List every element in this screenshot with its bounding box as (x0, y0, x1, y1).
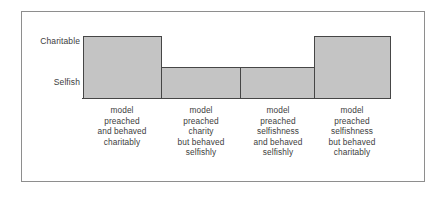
bar-model-preached-and-behaved-charitably (83, 36, 162, 99)
x-axis-labels: modelpreachedand behavedcharitably model… (22, 105, 424, 175)
bar-model-preached-selfishness-and-behaved-selfishly (240, 67, 315, 99)
figure: Charitable Selfish modelpreachedand beha… (0, 0, 447, 197)
x-axis-label-line: but behaved (284, 137, 420, 148)
x-axis-label-4: modelpreachedselfishnessbut behavedchari… (284, 105, 420, 158)
x-axis-label-line: selfishness (284, 126, 420, 137)
x-axis-label-line: model (284, 105, 420, 116)
bar-model-preached-charity-but-behaved-selfishly (161, 67, 241, 99)
x-axis-label-line: preached (284, 116, 420, 127)
plot-area: Charitable Selfish modelpreachedand beha… (22, 12, 424, 181)
bar-model-preached-selfishness-but-behaved-charitably (314, 36, 391, 99)
x-axis-label-line: charitably (284, 147, 420, 158)
chart-frame: Charitable Selfish modelpreachedand beha… (21, 11, 425, 182)
